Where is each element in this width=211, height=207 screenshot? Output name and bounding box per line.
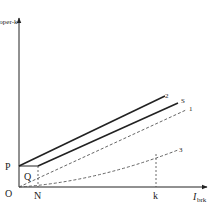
curve-1: [19, 110, 186, 187]
label-curve-3: 3: [179, 146, 183, 154]
label-curve-1: 1: [189, 105, 193, 113]
curve-2: [19, 96, 165, 166]
differential-protection-characteristic-diagram: Ioper-k I brk P Q O N k 2 S 1 3: [0, 0, 211, 207]
curve-3: [19, 150, 178, 187]
label-k: k: [153, 190, 158, 201]
label-p: P: [5, 161, 11, 172]
label-o: O: [5, 188, 12, 199]
label-n: N: [34, 190, 41, 201]
label-q: Q: [24, 171, 32, 182]
label-curve-2: 2: [165, 92, 169, 100]
label-curve-s: S: [181, 97, 185, 105]
x-axis-label-sub: brk: [197, 196, 207, 204]
curve-s: [38, 103, 178, 166]
y-axis-label: Ioper-k: [0, 18, 18, 26]
